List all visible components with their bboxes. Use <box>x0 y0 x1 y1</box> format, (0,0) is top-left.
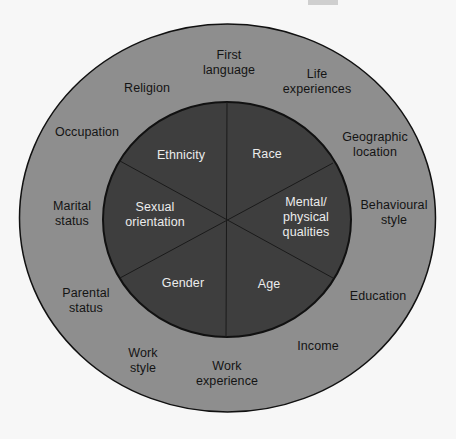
label-work-experience: Work experience <box>196 359 258 389</box>
label-ethnicity: Ethnicity <box>157 148 205 163</box>
label-occupation: Occupation <box>55 125 119 140</box>
label-sexual-orientation: Sexual orientation <box>125 200 184 230</box>
label-education: Education <box>350 289 407 304</box>
label-behavioural-style: Behavioural style <box>360 198 427 228</box>
label-age: Age <box>258 277 281 292</box>
label-religion: Religion <box>124 81 170 96</box>
label-parental-status: Parental status <box>62 286 109 316</box>
label-marital-status: Marital status <box>53 199 91 229</box>
label-income: Income <box>297 339 339 354</box>
label-gender: Gender <box>162 276 204 291</box>
label-work-style: Work style <box>128 346 157 376</box>
label-geographic-location: Geographic location <box>342 130 408 160</box>
label-mental-physical-qualities: Mental/ physical qualities <box>283 195 330 240</box>
label-life-experiences: Life experiences <box>283 67 352 97</box>
label-first-language: First language <box>203 48 255 78</box>
label-race: Race <box>252 147 282 162</box>
diversity-wheel-diagram: First language Life experiences Geograph… <box>0 0 456 439</box>
